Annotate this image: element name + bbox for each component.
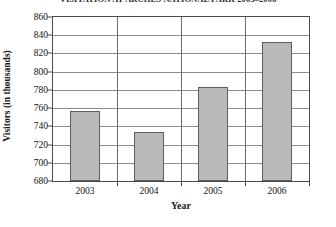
x-axis-tick-mark [117, 182, 118, 186]
y-axis-tick-label: 700 [8, 158, 48, 168]
x-axis-tick-mark [309, 182, 310, 186]
y-axis-tick-label: 780 [8, 85, 48, 95]
x-axis-tick-mark [181, 182, 182, 186]
category-separator [181, 17, 182, 181]
x-axis-tick-label: 2003 [76, 186, 95, 196]
y-axis-tick-label: 720 [8, 140, 48, 150]
x-axis-tick-mark [245, 182, 246, 186]
bar [262, 42, 291, 181]
x-axis-tick-label: 2004 [140, 186, 159, 196]
bar-chart: VISITATION AT ARCHES NATIONAL PARK 2003–… [0, 0, 336, 227]
x-axis-title: Year [52, 200, 310, 211]
y-axis-tick-label: 800 [8, 67, 48, 77]
y-axis-tick-label: 760 [8, 103, 48, 113]
y-axis-tick-label: 840 [8, 30, 48, 40]
y-axis-tick-label: 860 [8, 12, 48, 22]
bar [134, 132, 163, 181]
y-axis-tick-label: 680 [8, 176, 48, 186]
plot-area [52, 16, 310, 182]
bar [198, 87, 227, 181]
category-separator [117, 17, 118, 181]
y-axis-tick-label: 740 [8, 121, 48, 131]
y-axis-tick-label: 820 [8, 48, 48, 58]
x-axis-tick-label: 2006 [268, 186, 287, 196]
category-separator [245, 17, 246, 181]
bar [70, 111, 99, 181]
x-axis-tick-label: 2005 [204, 186, 223, 196]
